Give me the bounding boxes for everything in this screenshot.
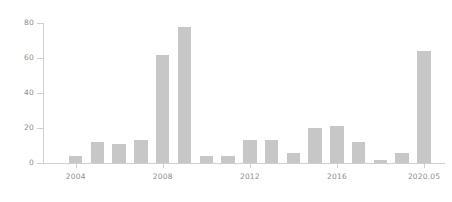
bar[interactable] <box>308 128 321 163</box>
x-axis-tick <box>424 163 425 168</box>
bar-slot <box>174 23 196 163</box>
bar-slot <box>326 23 348 163</box>
bar-slot <box>261 23 283 163</box>
x-axis-tick-label: 2012 <box>240 172 260 181</box>
bar-slot <box>304 23 326 163</box>
bar[interactable] <box>91 142 104 163</box>
y-axis-tick-labels: 020406080 <box>0 0 34 202</box>
bar[interactable] <box>395 153 408 163</box>
bar[interactable] <box>265 140 278 163</box>
x-axis-tick-label: 2016 <box>327 172 347 181</box>
y-axis-tick <box>37 23 43 24</box>
x-axis-tick-label: 2004 <box>66 172 86 181</box>
bar-slot <box>413 23 435 163</box>
x-axis-tick-label: 2020.05 <box>408 172 440 181</box>
bar-slot <box>108 23 130 163</box>
bar-slot <box>348 23 370 163</box>
bar-chart: 020406080 20042008201220162020.05 <box>0 0 452 202</box>
bar[interactable] <box>200 156 213 163</box>
y-axis-tick-label: 40 <box>0 89 34 97</box>
y-axis-tick <box>37 58 43 59</box>
y-axis-tick-label: 60 <box>0 54 34 62</box>
bar-slot <box>195 23 217 163</box>
bar[interactable] <box>156 55 169 164</box>
bar-slot <box>87 23 109 163</box>
bars-layer <box>43 23 435 163</box>
y-axis-tick-label: 0 <box>0 159 34 167</box>
x-axis-line <box>43 163 445 164</box>
bar[interactable] <box>112 144 125 163</box>
x-axis-tick <box>337 163 338 168</box>
y-axis-tick <box>37 128 43 129</box>
bar-slot <box>65 23 87 163</box>
y-axis-tick-label: 20 <box>0 124 34 132</box>
bar[interactable] <box>134 140 147 163</box>
bar-slot <box>369 23 391 163</box>
x-axis-tick <box>163 163 164 168</box>
x-axis-tick-label: 2008 <box>153 172 173 181</box>
bar-slot <box>130 23 152 163</box>
bar[interactable] <box>330 126 343 163</box>
bar[interactable] <box>374 160 387 163</box>
x-axis-tick <box>250 163 251 168</box>
bar[interactable] <box>221 156 234 163</box>
plot-area <box>43 23 435 163</box>
bar-slot <box>152 23 174 163</box>
bar[interactable] <box>352 142 365 163</box>
y-axis-tick-label: 80 <box>0 19 34 27</box>
bar[interactable] <box>287 153 300 164</box>
bar[interactable] <box>243 140 256 163</box>
bar[interactable] <box>417 51 430 163</box>
bar[interactable] <box>178 27 191 164</box>
y-axis-tick <box>37 93 43 94</box>
y-axis-tick <box>37 163 43 164</box>
bar-slot <box>282 23 304 163</box>
bar-slot <box>217 23 239 163</box>
x-axis-tick <box>76 163 77 168</box>
bar-slot <box>239 23 261 163</box>
bar[interactable] <box>69 156 82 163</box>
bar-slot <box>391 23 413 163</box>
bar-slot <box>43 23 65 163</box>
